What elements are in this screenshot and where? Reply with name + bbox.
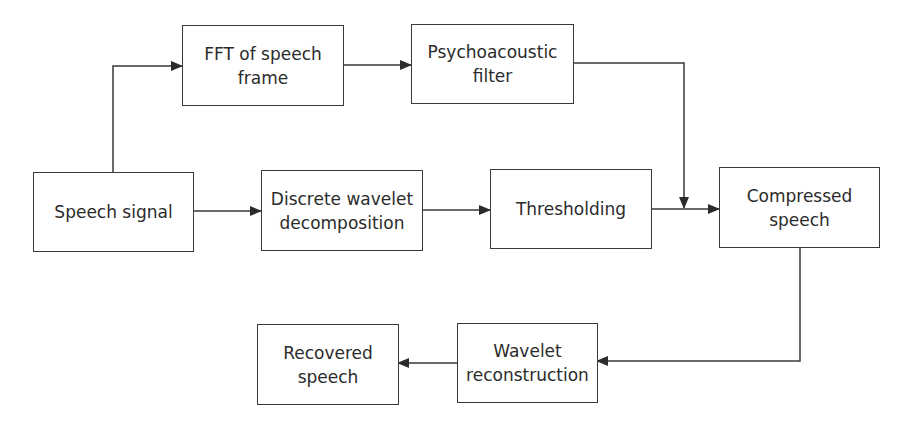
node-fft-of-speech-frame: FFT of speech frame	[182, 25, 344, 106]
node-label: Discrete wavelet decomposition	[271, 187, 413, 235]
node-label: Speech signal	[54, 200, 172, 224]
node-psychoacoustic-filter: Psychoacoustic filter	[411, 24, 574, 104]
node-label: Compressed speech	[747, 184, 853, 232]
node-discrete-wavelet-decomposition: Discrete wavelet decomposition	[261, 170, 423, 251]
node-thresholding: Thresholding	[490, 169, 652, 249]
node-compressed-speech: Compressed speech	[719, 167, 880, 248]
node-label: Psychoacoustic filter	[428, 40, 558, 88]
node-recovered-speech: Recovered speech	[257, 324, 399, 405]
node-wavelet-reconstruction: Wavelet reconstruction	[457, 323, 598, 403]
node-speech-signal: Speech signal	[33, 172, 194, 252]
node-label: Recovered speech	[283, 341, 373, 389]
node-label: Thresholding	[516, 197, 626, 221]
edge-compressed-to-recon	[597, 247, 800, 361]
edge-speech-to-fft	[113, 66, 182, 172]
node-label: Wavelet reconstruction	[466, 339, 589, 387]
node-label: FFT of speech frame	[204, 42, 322, 90]
